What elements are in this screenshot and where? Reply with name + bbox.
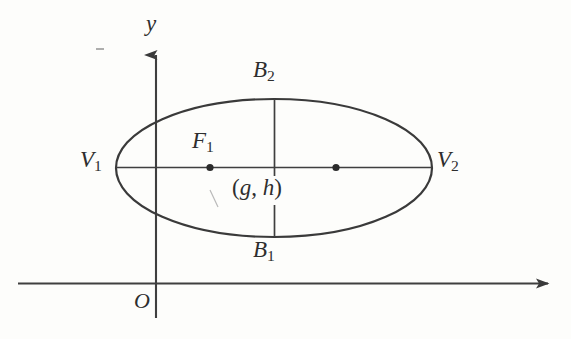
stray-mark-diagonal bbox=[210, 190, 218, 207]
center-g: g bbox=[240, 175, 252, 200]
center-h: h bbox=[263, 175, 275, 200]
covertex-bottom-subscript: 1 bbox=[267, 247, 275, 264]
center-coordinates-label: (g, h) bbox=[232, 176, 282, 199]
center-paren-close: ) bbox=[274, 175, 282, 200]
covertex-bottom-letter: B bbox=[253, 237, 267, 262]
focus-left-letter: F bbox=[192, 128, 206, 153]
focus-left-label: F1 bbox=[192, 129, 214, 155]
covertex-top-subscript: 2 bbox=[267, 67, 275, 84]
focus-point-f2 bbox=[332, 164, 339, 171]
focus-point-f1 bbox=[206, 164, 213, 171]
y-axis-label: y bbox=[146, 12, 156, 35]
vertex-left-subscript: 1 bbox=[94, 157, 102, 174]
center-paren-open: ( bbox=[232, 175, 240, 200]
origin-label: O bbox=[134, 290, 150, 312]
covertex-bottom-label: B1 bbox=[253, 238, 275, 264]
vertex-right-label: V2 bbox=[437, 148, 459, 174]
vertex-right-letter: V bbox=[437, 147, 451, 172]
figure-canvas: y O V1 V2 B2 B1 F1 (g, h) bbox=[0, 0, 571, 339]
vertex-left-label: V1 bbox=[80, 148, 102, 174]
focus-left-subscript: 1 bbox=[206, 138, 214, 155]
vertex-left-letter: V bbox=[80, 147, 94, 172]
covertex-top-label: B2 bbox=[253, 58, 275, 84]
center-comma: , bbox=[251, 175, 263, 200]
vertex-right-subscript: 2 bbox=[451, 157, 459, 174]
covertex-top-letter: B bbox=[253, 57, 267, 82]
